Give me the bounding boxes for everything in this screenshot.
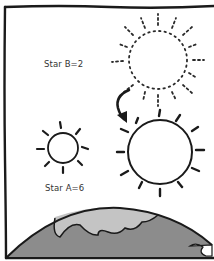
star-b-near-icon bbox=[117, 110, 204, 196]
star-a-icon bbox=[37, 122, 88, 173]
curved-arrow-icon bbox=[117, 90, 129, 123]
star-b-label: Star B=2 bbox=[44, 59, 83, 69]
earth-icon bbox=[7, 207, 212, 257]
diagram-canvas bbox=[0, 0, 214, 261]
star-a-label: Star A=6 bbox=[45, 183, 84, 193]
